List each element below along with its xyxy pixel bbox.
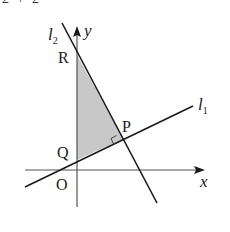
point-r-label: R bbox=[58, 49, 69, 66]
line-l2-label: l2 bbox=[48, 25, 58, 46]
origin-label: O bbox=[56, 176, 68, 193]
line-l1-label: l1 bbox=[198, 95, 208, 116]
point-q-label: Q bbox=[57, 144, 69, 161]
shaded-triangle-pqr bbox=[77, 55, 123, 160]
x-axis-label: x bbox=[199, 172, 208, 191]
line-l2 bbox=[62, 23, 157, 203]
coordinate-diagram: y x O R Q P l2 l1 bbox=[0, 0, 230, 232]
y-axis-label: y bbox=[82, 21, 92, 40]
point-p-label: P bbox=[122, 118, 131, 135]
